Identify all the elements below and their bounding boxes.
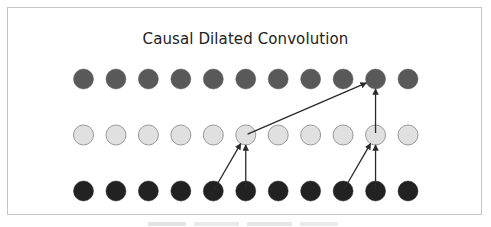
input-node — [301, 181, 321, 201]
hidden-node — [236, 125, 256, 145]
output-node — [398, 69, 418, 89]
output-node — [106, 69, 126, 89]
output-node — [203, 69, 223, 89]
input-node — [203, 181, 223, 201]
hidden-node — [203, 125, 223, 145]
input-node — [106, 181, 126, 201]
input-node — [268, 181, 288, 201]
input-node — [171, 181, 191, 201]
output-node — [366, 69, 386, 89]
input-node — [138, 181, 158, 201]
output-node — [301, 69, 321, 89]
output-node — [138, 69, 158, 89]
hidden-node — [398, 125, 418, 145]
output-node — [74, 69, 94, 89]
convolution-diagram — [0, 0, 491, 227]
output-node — [268, 69, 288, 89]
hidden-node — [171, 125, 191, 145]
hidden-node — [138, 125, 158, 145]
hidden-node — [74, 125, 94, 145]
input-node — [333, 181, 353, 201]
output-node — [236, 69, 256, 89]
output-node — [333, 69, 353, 89]
hidden-node — [268, 125, 288, 145]
dilation-arrow — [344, 144, 370, 190]
clipped-caption — [148, 220, 338, 227]
hidden-node — [301, 125, 321, 145]
hidden-node — [333, 125, 353, 145]
input-node — [74, 181, 94, 201]
output-node — [171, 69, 191, 89]
hidden-node — [106, 125, 126, 145]
dilation-arrow — [214, 144, 240, 190]
input-node — [398, 181, 418, 201]
